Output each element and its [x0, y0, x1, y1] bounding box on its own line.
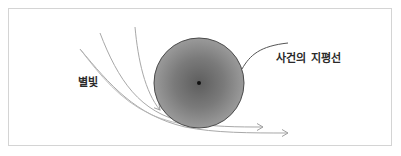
black-hole-diagram	[0, 0, 401, 156]
event-horizon-label: 사건의 지평선	[276, 49, 341, 65]
starlight-label: 별빛	[78, 73, 98, 89]
singularity-dot	[197, 81, 201, 85]
